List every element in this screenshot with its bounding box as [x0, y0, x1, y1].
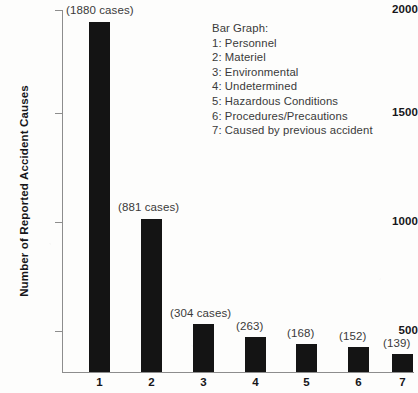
bar-4 [245, 337, 266, 372]
x-axis-label-3: 3 [193, 377, 214, 389]
y-axis-label-500: 500 [370, 325, 418, 337]
legend-entry-2: 2: Materiel [212, 50, 373, 65]
x-axis-label-7: 7 [392, 377, 413, 389]
bar-5-value-label: (168) [287, 328, 314, 340]
x-axis-line [62, 372, 414, 373]
x-axis-label-6: 6 [348, 377, 369, 389]
legend-entry-4: 4: Undetermined [212, 79, 373, 94]
y-axis-label-1500: 1500 [370, 107, 418, 119]
bar-7 [392, 354, 413, 372]
bar-3-value-label: (304 cases) [170, 308, 231, 320]
plot-area: 2000 1500 1000 500 Number of Reported Ac… [0, 0, 418, 393]
bar-2-value-label: (881 cases) [118, 202, 179, 214]
bar-1-value-label: (1880 cases) [66, 5, 134, 17]
legend-entry-7: 7: Caused by previous accident [212, 123, 373, 138]
bar-6 [348, 347, 369, 372]
y-axis-label-1000: 1000 [370, 216, 418, 228]
legend-title: Bar Graph: [212, 21, 373, 36]
x-axis-label-5: 5 [296, 377, 317, 389]
legend-entry-3: 3: Environmental [212, 65, 373, 80]
y-axis-tick-2000 [55, 10, 63, 11]
legend-entry-6: 6: Procedures/Precautions [212, 109, 373, 124]
bar-2 [141, 219, 162, 372]
bar-1 [89, 22, 110, 372]
y-axis-title: Number of Reported Accident Causes [18, 71, 30, 311]
y-axis-tick-500 [55, 331, 63, 332]
y-axis-tick-1000 [55, 222, 63, 223]
y-axis-line [62, 10, 63, 372]
bar-6-value-label: (152) [339, 331, 366, 343]
legend: Bar Graph: 1: Personnel 2: Materiel 3: E… [212, 21, 373, 138]
bar-4-value-label: (263) [236, 321, 263, 333]
bar-3 [193, 324, 214, 372]
x-axis-label-1: 1 [89, 377, 110, 389]
x-axis-label-4: 4 [245, 377, 266, 389]
x-axis-label-2: 2 [141, 377, 162, 389]
bar-5 [296, 344, 317, 372]
bar-7-value-label: (139) [383, 338, 410, 350]
legend-entry-1: 1: Personnel [212, 36, 373, 51]
legend-entry-5: 5: Hazardous Conditions [212, 94, 373, 109]
bar-chart-figure: 2000 1500 1000 500 Number of Reported Ac… [0, 0, 418, 393]
y-axis-tick-1500 [55, 113, 63, 114]
y-axis-label-2000: 2000 [370, 4, 418, 16]
